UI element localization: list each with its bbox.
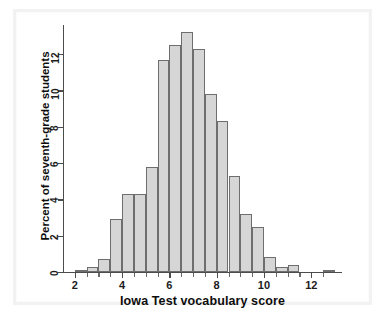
histogram-bar [205,94,217,272]
x-tick-minor [98,273,99,277]
x-tick-minor [146,273,147,277]
x-tick-label: 8 [206,279,228,291]
histogram-plot: 024681012 24681012 Percent of seventh-gr… [0,0,389,324]
x-tick [169,273,170,278]
figure: 024681012 24681012 Percent of seventh-gr… [0,0,389,324]
y-tick-label: 4 [50,198,61,204]
x-tick-minor [87,273,88,277]
x-tick-minor [288,273,289,277]
x-tick-minor [110,273,111,277]
histogram-bar [240,214,252,272]
x-tick-label: 12 [300,279,322,291]
x-tick [75,273,76,278]
histogram-bar [122,194,134,272]
x-tick-minor [193,273,194,277]
histogram-bar [134,194,146,272]
y-tick-label: 6 [50,162,61,168]
histogram-bar [158,60,170,272]
y-tick-label: 12 [50,53,61,64]
histogram-bar [181,32,193,272]
y-tick-label: 0 [50,271,61,277]
x-tick-label: 2 [64,279,86,291]
x-tick [311,273,312,278]
x-tick [217,273,218,278]
y-axis-line [63,25,64,273]
x-tick-minor [229,273,230,277]
x-tick-minor [252,273,253,277]
x-tick-minor [158,273,159,277]
x-tick [264,273,265,278]
x-tick [122,273,123,278]
x-tick-minor [299,273,300,277]
y-tick-label: 10 [50,89,61,100]
y-tick-label-wrap: 0 [38,265,55,279]
x-tick-label: 4 [111,279,133,291]
x-tick-minor [181,273,182,277]
y-tick-label: 8 [50,125,61,131]
histogram-bar [169,45,181,272]
histogram-bar [252,227,264,272]
histogram-bar [98,259,110,272]
histogram-bar [288,265,300,272]
histogram-bar [146,167,158,272]
x-tick-label: 10 [253,279,275,291]
x-tick-minor [240,273,241,277]
y-axis-title: Percent of seventh-grade students [39,31,51,261]
histogram-bar [229,176,241,272]
x-tick-minor [276,273,277,277]
x-tick-minor [134,273,135,277]
y-tick-label: 2 [50,234,61,240]
x-axis-title: Iowa Test vocabulary score [63,294,342,308]
histogram-bar [217,121,229,272]
x-tick-minor [323,273,324,277]
histogram-bar [110,219,122,272]
x-tick-label: 6 [158,279,180,291]
histogram-bar [193,49,205,272]
histogram-bar [264,257,276,272]
x-tick-minor [205,273,206,277]
